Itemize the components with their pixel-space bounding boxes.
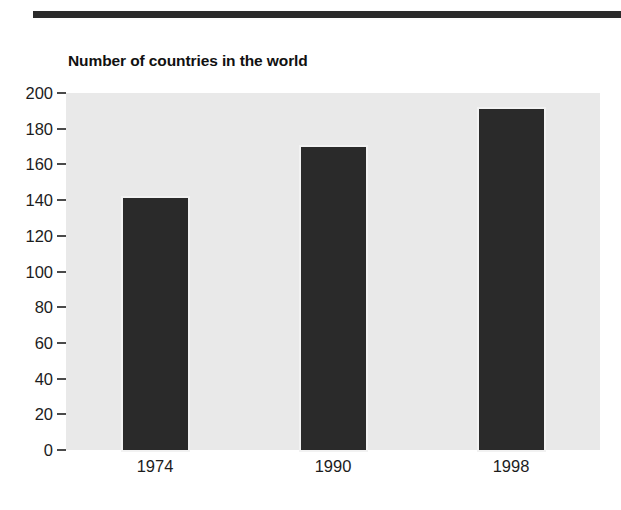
y-axis-tick-label: 20 — [35, 404, 53, 424]
x-axis-label: 1998 — [422, 456, 600, 476]
x-axis-label: 1974 — [66, 456, 244, 476]
y-axis-tick-mark — [57, 163, 66, 165]
y-axis-tick-label: 0 — [44, 440, 53, 460]
chart-title: Number of countries in the world — [68, 52, 308, 70]
y-axis-tick-mark — [57, 413, 66, 415]
y-axis-tick-label: 120 — [25, 226, 53, 246]
y-axis-tick-mark — [57, 271, 66, 273]
y-axis-tick-label: 40 — [35, 369, 53, 389]
y-axis-tick-mark — [57, 128, 66, 130]
y-axis-tick-mark — [57, 199, 66, 201]
y-axis-tick-label: 180 — [25, 119, 53, 139]
y-axis-tick-label: 200 — [25, 83, 53, 103]
y-axis: 020406080100120140160180200 — [0, 93, 66, 450]
bars-layer — [66, 93, 600, 450]
y-axis-tick-label: 160 — [25, 154, 53, 174]
bar-chart-figure: Number of countries in the world 0204060… — [0, 0, 621, 510]
y-axis-tick-mark — [57, 306, 66, 308]
y-axis-tick-label: 60 — [35, 333, 53, 353]
bar-1974 — [123, 198, 188, 450]
y-axis-tick-label: 140 — [25, 190, 53, 210]
x-axis: 197419901998 — [66, 452, 600, 482]
y-axis-tick-mark — [57, 342, 66, 344]
x-axis-label: 1990 — [244, 456, 422, 476]
y-axis-tick-mark — [57, 449, 66, 451]
y-axis-tick-mark — [57, 92, 66, 94]
y-axis-tick-mark — [57, 378, 66, 380]
y-axis-tick-label: 100 — [25, 262, 53, 282]
y-axis-tick-mark — [57, 235, 66, 237]
y-axis-tick-label: 80 — [35, 297, 53, 317]
top-divider-rule — [33, 11, 621, 18]
bar-1990 — [301, 147, 366, 450]
bar-1998 — [479, 109, 544, 450]
